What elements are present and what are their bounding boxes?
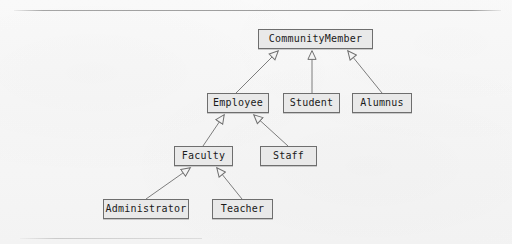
class-box-employee[interactable]: Employee xyxy=(207,93,269,113)
class-box-alumnus[interactable]: Alumnus xyxy=(352,93,412,113)
class-label-employee: Employee xyxy=(213,98,263,109)
class-label-alumnus: Alumnus xyxy=(360,98,404,109)
diagram-page: CommunityMember Employee Student Alumnus… xyxy=(0,0,512,244)
edge-administrator-to-faculty xyxy=(146,168,190,199)
class-label-staff: Staff xyxy=(273,151,304,162)
class-box-staff[interactable]: Staff xyxy=(260,146,317,166)
class-label-communitymember: CommunityMember xyxy=(269,34,362,45)
class-label-faculty: Faculty xyxy=(182,151,226,162)
edge-teacher-to-faculty xyxy=(217,168,242,199)
class-label-administrator: Administrator xyxy=(106,204,187,215)
class-label-teacher: Teacher xyxy=(221,204,265,215)
class-box-faculty[interactable]: Faculty xyxy=(174,146,233,166)
edge-employee-to-communitymember xyxy=(236,51,278,93)
class-box-student[interactable]: Student xyxy=(283,93,340,113)
class-box-communitymember[interactable]: CommunityMember xyxy=(258,29,373,49)
class-label-student: Student xyxy=(290,98,334,109)
edge-alumnus-to-communitymember xyxy=(348,51,382,93)
class-box-teacher[interactable]: Teacher xyxy=(212,199,273,219)
class-box-administrator[interactable]: Administrator xyxy=(103,199,189,219)
edge-faculty-to-employee xyxy=(203,115,224,146)
edge-staff-to-employee xyxy=(254,115,288,146)
